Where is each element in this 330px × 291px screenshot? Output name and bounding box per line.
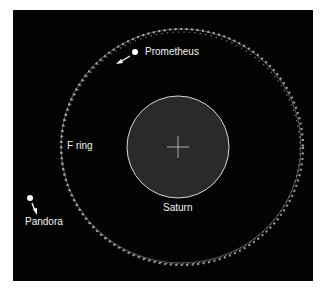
pandora-moon: [27, 195, 37, 215]
saturn-planet: [127, 96, 229, 198]
arrow-icon: [33, 208, 37, 215]
saturn-f-ring-diagram: [0, 0, 330, 291]
prometheus-moon: [116, 49, 138, 64]
saturn-label: Saturn: [163, 203, 192, 213]
f-ring-label: F ring: [67, 141, 93, 151]
pandora-label: Pandora: [25, 217, 63, 227]
prometheus-label: Prometheus: [145, 47, 199, 57]
arrow-icon: [116, 59, 123, 64]
